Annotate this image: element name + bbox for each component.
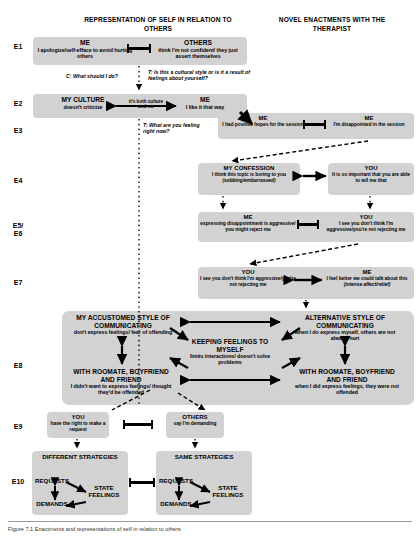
connector-overlay: [0, 0, 420, 541]
arrow-e10a-requests-to-state: [66, 482, 86, 492]
arrow-e8-accustomed-to-keeping: [170, 328, 188, 340]
arrow-e10a-state-to-demands: [66, 502, 86, 506]
figure-caption: Figure 7.1 Enactments and representation…: [8, 526, 412, 533]
arrow-e8-keeping-to-roommate-left: [170, 358, 188, 368]
arrow-e10b-state-to-demands: [190, 502, 210, 506]
arrow-e2-to-e3: [240, 112, 252, 124]
dashed-e3-to-e4: [232, 141, 368, 161]
diagram-canvas: REPRESENTATION OF SELF IN RELATION TO OT…: [0, 0, 420, 541]
caption-divider: [8, 521, 412, 522]
arrow-e8-alternative-to-keeping: [282, 328, 300, 340]
arrow-e8-keeping-to-roommate-right: [282, 358, 300, 368]
dashed-e9-crossover: [112, 390, 150, 410]
dashed-e8-to-e9: [178, 393, 205, 410]
arrow-e10b-requests-to-state: [190, 482, 210, 492]
dashed-e5e6-to-e7: [250, 244, 358, 264]
